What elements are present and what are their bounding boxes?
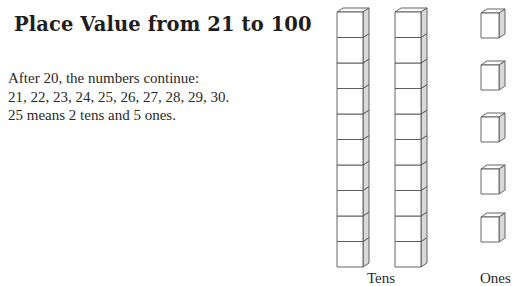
cube-front-face bbox=[481, 217, 499, 242]
cube-front-face bbox=[395, 216, 421, 242]
cube-side-face bbox=[421, 238, 427, 268]
cube-side-face bbox=[421, 212, 427, 242]
cube-side-face bbox=[499, 213, 505, 242]
cube-side-face bbox=[363, 59, 369, 89]
cube-front-face bbox=[337, 38, 363, 64]
cube-side-face bbox=[363, 8, 369, 38]
cube-side-face bbox=[363, 34, 369, 64]
cube-side-face bbox=[499, 113, 505, 142]
cube-front-face bbox=[395, 165, 421, 191]
ones-cube bbox=[481, 213, 505, 242]
cube-front-face bbox=[337, 242, 363, 268]
cube-front-face bbox=[481, 117, 499, 142]
cube-front-face bbox=[395, 140, 421, 166]
cube-side-face bbox=[421, 34, 427, 64]
cube-front-face bbox=[395, 191, 421, 217]
cube-front-face bbox=[337, 140, 363, 166]
cube-side-face bbox=[499, 61, 505, 90]
cube-front-face bbox=[337, 165, 363, 191]
cube-front-face bbox=[337, 216, 363, 242]
cube-side-face bbox=[363, 136, 369, 166]
cube-side-face bbox=[421, 85, 427, 115]
cube-front-face bbox=[481, 13, 499, 38]
cube-side-face bbox=[363, 212, 369, 242]
cube-front-face bbox=[481, 65, 499, 90]
cube-front-face bbox=[395, 38, 421, 64]
cube-side-face bbox=[499, 9, 505, 38]
base-ten-blocks-figure bbox=[0, 0, 527, 286]
cube-front-face bbox=[395, 242, 421, 268]
cube-side-face bbox=[421, 161, 427, 191]
ones-cube bbox=[481, 165, 505, 194]
cube-front-face bbox=[337, 114, 363, 140]
cube-side-face bbox=[363, 161, 369, 191]
cube-side-face bbox=[363, 187, 369, 217]
cube-side-face bbox=[421, 8, 427, 38]
tens-rod bbox=[337, 8, 369, 267]
ones-cube bbox=[481, 113, 505, 142]
ones-cube bbox=[481, 9, 505, 38]
ones-label: Ones bbox=[480, 270, 511, 286]
cube-side-face bbox=[363, 85, 369, 115]
cube-side-face bbox=[363, 238, 369, 268]
cube-side-face bbox=[421, 136, 427, 166]
cube-front-face bbox=[395, 89, 421, 115]
ones-cube bbox=[481, 61, 505, 90]
cube-front-face bbox=[337, 63, 363, 89]
cube-side-face bbox=[421, 110, 427, 140]
cube-front-face bbox=[395, 12, 421, 38]
cube-side-face bbox=[499, 165, 505, 194]
cube-front-face bbox=[337, 12, 363, 38]
tens-rod bbox=[395, 8, 427, 267]
cube-front-face bbox=[395, 63, 421, 89]
cube-front-face bbox=[337, 191, 363, 217]
cube-side-face bbox=[421, 59, 427, 89]
cube-front-face bbox=[337, 89, 363, 115]
cube-side-face bbox=[421, 187, 427, 217]
cube-side-face bbox=[363, 110, 369, 140]
cube-front-face bbox=[481, 169, 499, 194]
cube-front-face bbox=[395, 114, 421, 140]
tens-label: Tens bbox=[367, 270, 395, 286]
